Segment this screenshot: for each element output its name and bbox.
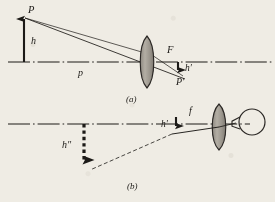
optics-figure: P h p F h′ P′ (a) [0,0,275,202]
label-object-distance-a: p [77,67,83,78]
label-virtual-image-height-b: h″ [62,139,72,150]
label-image-point-a: P′ [175,76,185,87]
label-object-height-a: h [31,35,36,46]
chief-ray-a [25,18,185,79]
label-object-point-a: P [27,4,35,15]
converging-lens-a [140,36,154,88]
label-focal-length-b: f [189,105,193,116]
label-image-height-a: h′ [185,63,193,73]
panel-a: P h p F h′ P′ (a) [8,4,272,104]
caption-b: (b) [127,181,138,191]
label-image-height-b: h′ [161,119,169,129]
parallel-ray-a [25,18,152,55]
virtual-ray-extension-b [90,134,172,170]
panel-b: f h′ h″ (b) [8,104,265,191]
eye-icon [239,109,265,135]
figure-canvas: P h p F h′ P′ (a) [0,0,275,202]
label-focal-point-a: F [166,44,174,55]
caption-a: (a) [126,94,137,104]
